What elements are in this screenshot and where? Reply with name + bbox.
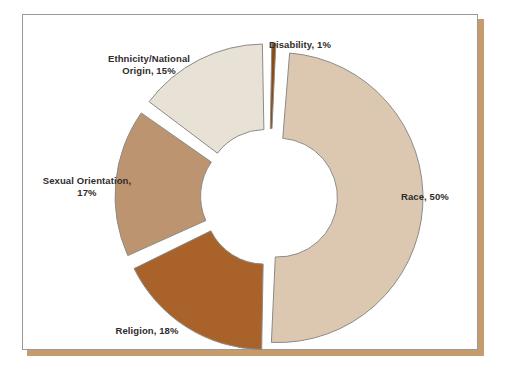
- slice-label-sexual-orientation: Sexual Orientation, 17%: [29, 175, 145, 199]
- slice-label-religion: Religion, 18%: [85, 325, 209, 337]
- donut-chart: Race, 50% Disability, 1% Ethnicity/Natio…: [23, 15, 479, 351]
- donut-slice-disability[interactable]: [270, 43, 276, 129]
- slice-label-race: Race, 50%: [401, 191, 449, 203]
- slice-label-ethnicity-national-origin: Ethnicity/National Origin, 15%: [87, 53, 211, 77]
- donut-wedge-group: [115, 43, 423, 350]
- chart-card: Race, 50% Disability, 1% Ethnicity/Natio…: [22, 14, 478, 350]
- slice-label-disability: Disability, 1%: [230, 39, 370, 51]
